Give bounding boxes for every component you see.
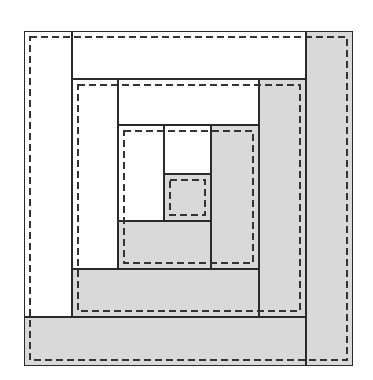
seam-center-line — [170, 180, 205, 215]
log-cabin-quilt-diagram — [0, 0, 373, 380]
seam-ring3-line — [124, 131, 253, 263]
seam-lines — [0, 0, 373, 380]
seam-ring2-line — [78, 85, 300, 311]
